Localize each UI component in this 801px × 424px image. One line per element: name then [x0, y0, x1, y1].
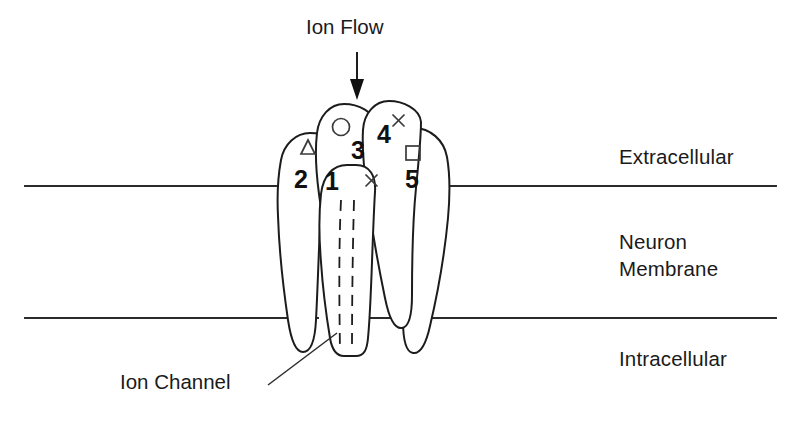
- subunit-number-5: 5: [405, 165, 419, 193]
- subunit-number-4: 4: [377, 120, 391, 148]
- subunit-number-2: 2: [294, 165, 308, 193]
- ion-channel-diagram: 1 2 3 4 5 Ion Flow Ion Channel Extracell…: [0, 0, 801, 424]
- ion-flow-arrow-head: [350, 79, 364, 100]
- intracellular-label: Intracellular: [619, 345, 727, 372]
- extracellular-label: Extracellular: [619, 143, 734, 170]
- ion-flow-label: Ion Flow: [306, 15, 383, 39]
- subunit-number-1: 1: [325, 167, 339, 195]
- ion-channel-label: Ion Channel: [120, 370, 231, 394]
- subunit-number-3: 3: [351, 136, 365, 164]
- neuron-membrane-label: Neuron Membrane: [619, 228, 718, 282]
